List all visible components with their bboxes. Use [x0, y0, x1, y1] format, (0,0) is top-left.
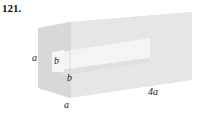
label-hole-width: b — [54, 55, 59, 66]
prism-figure — [0, 0, 200, 114]
label-hole-height: b — [67, 72, 72, 83]
label-front-width: a — [64, 99, 69, 110]
label-front-height: a — [32, 52, 37, 63]
label-length: 4a — [148, 86, 158, 97]
